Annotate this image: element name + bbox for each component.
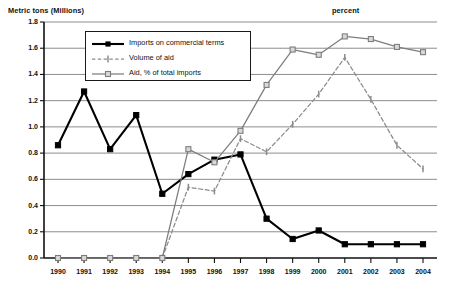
legend-swatch-open-square-icon <box>91 66 125 78</box>
data-point-filled-square <box>134 112 139 117</box>
data-point-filled-square <box>186 171 191 176</box>
y-tick-label: 0.8 <box>16 149 38 156</box>
y-axis-title-left: Metric tons (Millions) <box>8 6 84 15</box>
data-point-open-square <box>264 82 269 87</box>
data-point-open-square <box>368 37 373 42</box>
y-tick-label: 1.0 <box>16 123 38 130</box>
series-line <box>162 57 423 258</box>
x-tick-label: 2004 <box>406 268 440 275</box>
data-point-filled-square <box>342 242 347 247</box>
y-tick-label: 1.8 <box>16 18 38 25</box>
legend-item-aid-percent: Aid, % of total imports <box>91 65 201 79</box>
data-point-open-square <box>134 256 139 261</box>
data-point-open-square <box>394 44 399 49</box>
data-point-open-square <box>108 256 113 261</box>
data-point-filled-square <box>55 143 60 148</box>
legend-swatch-dashed-tick-icon <box>91 51 125 63</box>
data-point-open-square <box>342 34 347 39</box>
y-tick-label: 0.0 <box>16 254 38 261</box>
legend-item-volume-of-aid: Volume of aid <box>91 50 174 64</box>
data-point-filled-square <box>420 242 425 247</box>
y-tick-label: 1.6 <box>16 44 38 51</box>
data-point-filled-square <box>238 152 243 157</box>
y-axis-title-right: percent <box>332 6 359 15</box>
data-point-filled-square <box>264 216 269 221</box>
data-point-open-square <box>421 50 426 55</box>
data-point-open-square <box>316 52 321 57</box>
data-point-open-square <box>290 47 295 52</box>
data-point-open-square <box>238 128 243 133</box>
y-tick-label: 1.2 <box>16 97 38 104</box>
legend: Imports on commercial terms Volume of ai… <box>85 31 251 81</box>
data-point-filled-square <box>290 236 295 241</box>
y-tick-label: 0.2 <box>16 228 38 235</box>
data-point-filled-square <box>160 191 165 196</box>
series-line <box>58 91 423 244</box>
data-point-filled-square <box>108 147 113 152</box>
chart-container: Metric tons (Millions) percent 0.00.20.4… <box>0 0 449 289</box>
data-point-filled-square <box>394 242 399 247</box>
data-point-open-square <box>160 256 165 261</box>
legend-label: Aid, % of total imports <box>129 68 201 77</box>
y-tick-label: 0.6 <box>16 175 38 182</box>
data-point-filled-square <box>81 89 86 94</box>
legend-label: Volume of aid <box>129 53 174 62</box>
data-point-filled-square <box>368 242 373 247</box>
data-point-open-square <box>56 256 61 261</box>
legend-label: Imports on commercial terms <box>129 38 224 47</box>
data-point-open-square <box>186 147 191 152</box>
legend-item-imports: Imports on commercial terms <box>91 35 224 49</box>
data-point-open-square <box>82 256 87 261</box>
y-tick-label: 1.4 <box>16 70 38 77</box>
legend-swatch-filled-square-icon <box>91 36 125 48</box>
data-point-filled-square <box>316 228 321 233</box>
y-tick-label: 0.4 <box>16 202 38 209</box>
data-point-open-square <box>212 160 217 165</box>
